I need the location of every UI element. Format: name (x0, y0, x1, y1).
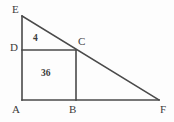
vertex-label-a: A (12, 104, 20, 115)
segment-EF-hypotenuse (22, 16, 159, 100)
figure-svg (0, 0, 174, 122)
square-area-label: 36 (41, 69, 51, 79)
vertex-label-e: E (12, 4, 19, 15)
triangle-area-label: 4 (33, 34, 38, 44)
vertex-label-b: B (69, 104, 76, 115)
vertex-label-f: F (160, 104, 166, 115)
vertex-label-d: D (10, 42, 18, 53)
vertex-label-c: C (78, 36, 85, 47)
geometry-figure: E D A B C F 4 36 (0, 0, 174, 122)
